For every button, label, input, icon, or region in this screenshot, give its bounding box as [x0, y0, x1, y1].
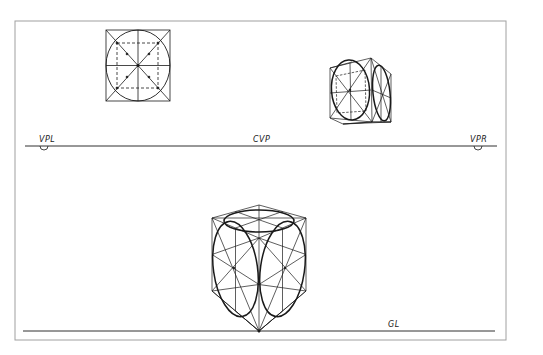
vpr-marker-icon [474, 146, 482, 150]
vpr-label: VPR [470, 136, 487, 144]
large-cube [207, 205, 311, 332]
small-cube [329, 58, 392, 124]
vpl-marker-icon [40, 146, 48, 150]
perspective-drawing [0, 0, 543, 355]
orthographic-square [106, 30, 170, 101]
cvp-label: CVP [253, 136, 270, 144]
vpl-label: VPL [39, 136, 55, 144]
gl-label: GL [388, 321, 400, 329]
